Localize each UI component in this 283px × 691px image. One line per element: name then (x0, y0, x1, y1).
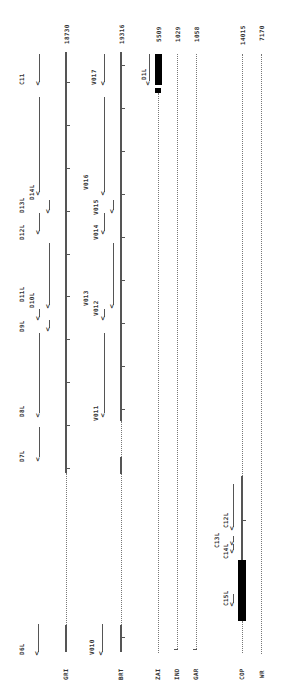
feature-label-d6l: D6L (18, 643, 25, 655)
brt-tick (122, 637, 125, 638)
track-label-gar: GAR (192, 668, 199, 680)
arrow-head-d10l: < (35, 316, 42, 320)
track-label-ind: IND (173, 668, 180, 680)
feature-label-v016: V016 (82, 174, 89, 190)
track-label-cop: COP (238, 668, 245, 680)
arrow-head-v011: < (100, 413, 107, 417)
arrow-v010 (102, 624, 103, 652)
track-label-zai: ZAI (154, 668, 161, 680)
arrow-head-d11l: < (45, 304, 52, 308)
gri-tick (67, 211, 70, 212)
arrow-head-d12l: < (35, 230, 42, 234)
gri-tick (67, 82, 70, 83)
cop-block (238, 560, 246, 621)
brt-tick (122, 409, 125, 410)
cop-dotted-segment (242, 54, 243, 476)
zai-block-main (155, 54, 162, 85)
gri-dotted-segment (66, 473, 67, 625)
arrow-head-d7l: < (35, 457, 42, 461)
arrow-d14l (39, 97, 40, 192)
arrow-head-c11: < (35, 81, 42, 85)
feature-label-d1l: D1L (140, 68, 147, 80)
arrow-head-v017: < (100, 81, 107, 85)
length-gri: 18730 (63, 24, 70, 44)
feature-label-v013: V013 (82, 290, 89, 306)
arrow-c11 (39, 54, 40, 82)
feature-label-d9l: D9L (18, 320, 25, 332)
length-ind: 1029 (174, 26, 181, 42)
brt-tick (122, 194, 125, 195)
brt-tick (122, 237, 125, 238)
brt-tick (122, 65, 125, 66)
feature-label-d13l: D13L (18, 197, 25, 213)
length-brt: 19316 (118, 24, 125, 44)
feature-label-c12l: C12L (222, 512, 229, 528)
track-label-gri: GRI (62, 668, 69, 680)
arrow-v011 (104, 333, 105, 413)
feature-label-v011: V011 (92, 405, 99, 421)
cop-tick (243, 520, 246, 521)
brt-dotted-segment-2 (121, 474, 122, 625)
brt-solid-segment-end (120, 625, 122, 652)
brt-tick (122, 366, 125, 367)
feature-label-v010: V010 (88, 639, 95, 655)
gri-solid-segment (65, 52, 67, 473)
track-label-wr: WR (258, 670, 265, 678)
gri-tick (67, 468, 70, 469)
gri-tick (67, 382, 70, 383)
gar-dotted-segment (196, 54, 197, 649)
arrow-head-v013: < (109, 304, 116, 308)
gri-tick (67, 425, 70, 426)
arrow-head-v012: < (100, 316, 107, 320)
zai-dotted-segment (158, 93, 159, 653)
arrow-head-d14l: < (35, 191, 42, 195)
track-label-brt: BRT (117, 668, 124, 680)
arrow-head-d6l: < (34, 651, 41, 655)
arrow-head-v014: < (100, 230, 107, 234)
arrow-d7l (39, 427, 40, 457)
brt-dotted-segment (121, 421, 122, 457)
gri-tick (67, 254, 70, 255)
length-gar: 1058 (193, 26, 200, 42)
cop-solid-segment (241, 476, 243, 560)
feature-label-c13l: C13L (213, 532, 220, 548)
arrow-head-c14l: < (229, 549, 236, 553)
arrow-d6l (38, 624, 39, 652)
cop-dotted-end (242, 621, 243, 653)
arrow-head-d9l: < (45, 327, 52, 331)
arrow-v017 (104, 54, 105, 82)
brt-tick (122, 108, 125, 109)
feature-label-v012: V012 (92, 300, 99, 316)
feature-label-d10l: D10L (28, 292, 35, 308)
brt-tick (122, 280, 125, 281)
feature-label-d12l: D12L (18, 224, 25, 240)
arrow-d11l (49, 243, 50, 305)
arrow-v014 (104, 213, 105, 231)
arrow-d1l (149, 54, 150, 81)
ind-end-marker (174, 649, 178, 650)
feature-label-d14l: D14L (28, 184, 35, 200)
arrow-head-d8l: < (35, 413, 42, 417)
wr-dotted-segment (261, 54, 262, 654)
brt-tick (122, 151, 125, 152)
feature-label-d11l: D11L (18, 286, 25, 302)
feature-label-c14l: C14L (222, 543, 229, 559)
length-zai: 5509 (155, 26, 162, 42)
arrow-d12l (39, 213, 40, 231)
arrow-head-d13l: < (45, 209, 52, 213)
gri-tick (67, 296, 70, 297)
gri-tick (67, 339, 70, 340)
brt-tick (122, 323, 125, 324)
length-wr: 7170 (258, 25, 265, 41)
feature-label-c11: C11 (18, 73, 25, 85)
gri-tick (67, 168, 70, 169)
ind-dotted-segment (177, 54, 178, 649)
feature-label-c15l: C15L (222, 590, 229, 606)
feature-label-v015: V015 (92, 199, 99, 215)
arrow-d8l (39, 333, 40, 413)
gar-end-marker (193, 649, 197, 650)
arrow-v013 (113, 243, 114, 305)
feature-label-d8l: D8L (18, 405, 25, 417)
length-cop: 14015 (239, 25, 246, 45)
arrow-head-d1l: < (145, 81, 152, 85)
